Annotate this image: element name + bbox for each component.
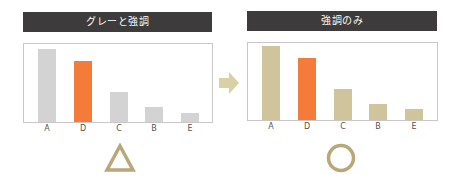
left-label-a: A [37,124,57,133]
left-label-c: C [109,124,129,133]
right-bar-c [334,89,352,120]
left-bar-e [181,113,199,122]
left-label-b: B [144,124,164,133]
triangle-icon [104,143,136,173]
right-label-e: E [404,122,424,131]
right-label-d: D [297,122,317,131]
right-chart [247,42,438,121]
right-arrow-icon [219,72,239,94]
right-label-a: A [261,122,281,131]
left-chart [23,43,213,123]
left-label-d: D [73,124,93,133]
left-bar-c [110,92,128,122]
right-label-c: C [333,122,353,131]
right-bar-a [262,46,280,120]
left-bar-a [38,49,56,122]
left-panel-title: グレーと強調 [23,12,212,32]
right-bar-e [405,109,423,120]
left-bar-d [74,61,92,122]
right-panel-title: 強調のみ [247,11,437,31]
right-bar-b [369,104,387,120]
circle-icon [325,142,357,174]
left-bar-b [145,107,163,122]
left-label-e: E [180,124,200,133]
right-label-b: B [368,122,388,131]
right-bar-d [298,58,316,120]
